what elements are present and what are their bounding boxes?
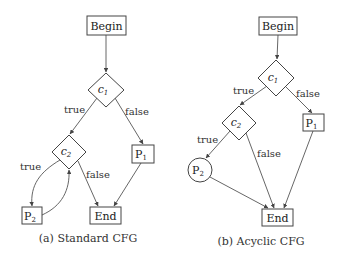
edge-label-c1-true: true xyxy=(233,85,254,96)
node-begin-label: Begin xyxy=(90,20,122,33)
edge-label-c2-false: false xyxy=(257,148,281,159)
caption-acyclic-cfg: (b) Acyclic CFG xyxy=(217,235,304,248)
edge-label-c2-false: false xyxy=(86,169,110,180)
edge-begin-c1 xyxy=(277,35,278,59)
edge-c1-false-p1 xyxy=(115,98,143,144)
edge-p2-end xyxy=(210,177,268,208)
node-c1-decision: c1 xyxy=(88,73,124,107)
panel-acyclic-cfg: Begin c1 c2 P1 P2 xyxy=(188,17,324,248)
node-p1: P1 xyxy=(132,145,154,163)
node-c1-decision: c1 xyxy=(258,60,294,96)
edge-label-c1-false: false xyxy=(125,106,149,117)
edge-label-c2-true: true xyxy=(197,134,218,145)
edge-label-c1-true: true xyxy=(64,104,85,115)
edge-c2-false-end xyxy=(78,161,98,206)
node-end-label: End xyxy=(94,210,116,223)
cfg-figure: Begin c1 c2 P1 P2 xyxy=(0,0,339,256)
node-begin-label: Begin xyxy=(262,20,294,33)
edge-p2-back-c2 xyxy=(42,170,69,215)
node-end: End xyxy=(262,209,293,226)
node-end-label: End xyxy=(266,212,288,225)
node-p2: P2 xyxy=(22,207,42,224)
edge-p1-end xyxy=(284,131,313,208)
node-p2: P2 xyxy=(188,158,212,182)
node-end: End xyxy=(90,207,121,224)
node-begin: Begin xyxy=(259,17,297,35)
edge-label-c1-false: false xyxy=(296,88,320,99)
edge-p1-end xyxy=(114,163,141,206)
edge-label-c2-true: true xyxy=(20,161,41,172)
edge-c2-false-end xyxy=(246,133,274,208)
panel-standard-cfg: Begin c1 c2 P1 P2 xyxy=(20,16,154,245)
node-p1: P1 xyxy=(303,114,324,131)
node-c2-decision: c2 xyxy=(52,135,86,169)
node-begin: Begin xyxy=(87,16,126,35)
caption-standard-cfg: (a) Standard CFG xyxy=(39,232,137,245)
